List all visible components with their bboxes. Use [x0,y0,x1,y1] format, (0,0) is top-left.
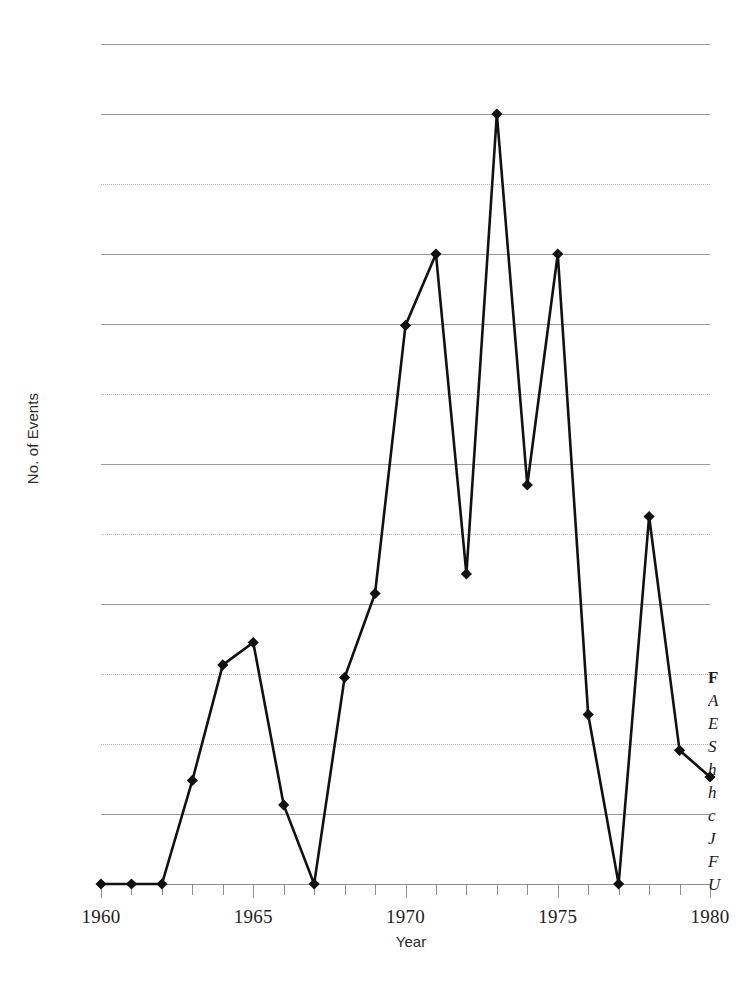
x-tick-mark [375,884,376,895]
y-axis-title: No. of Events [24,359,41,519]
x-tick-mark [406,884,407,898]
data-series [101,44,710,884]
plot-area: 0102030405060708090100110120 19601965197… [101,44,710,884]
x-tick-label: 1960 [56,906,146,928]
caption-line: c [708,804,739,827]
caption-line: F [708,666,739,689]
caption-line: A [708,689,739,712]
caption-line: h [708,758,739,781]
caption-line: F [708,850,739,873]
data-point-marker [430,248,441,259]
x-tick-mark [649,884,650,895]
x-tick-mark [527,884,528,895]
data-point-marker [461,568,472,579]
x-tick-mark [223,884,224,895]
x-tick-label: 1970 [361,906,451,928]
data-point-marker [278,799,289,810]
data-point-marker [369,588,380,599]
data-point-marker [583,709,594,720]
x-tick-label: 1980 [665,906,739,928]
x-tick-mark [466,884,467,895]
x-tick-mark [588,884,589,895]
data-point-marker [644,511,655,522]
x-tick-label: 1975 [513,906,603,928]
caption-line: J [708,827,739,850]
data-point-marker [339,672,350,683]
x-axis-title: Year [101,933,721,950]
x-tick-mark [253,884,254,898]
data-point-marker [156,878,167,889]
data-point-marker [187,775,198,786]
data-point-marker [309,878,320,889]
x-tick-mark [284,884,285,895]
data-point-marker [400,320,411,331]
x-tick-mark [345,884,346,895]
caption-line: S [708,735,739,758]
data-point-marker [491,108,502,119]
caption-line: E [708,712,739,735]
x-tick-mark [192,884,193,895]
x-tick-mark [558,884,559,898]
figure-line-chart: No. of Events Year 010203040506070809010… [0,0,739,981]
data-point-marker [552,248,563,259]
x-tick-label: 1965 [208,906,298,928]
figure-caption: FAEShhcJFU [708,666,739,896]
caption-line: h [708,781,739,804]
x-tick-mark [436,884,437,895]
caption-line: U [708,873,739,896]
data-point-marker [126,878,137,889]
x-tick-mark [680,884,681,895]
x-tick-mark [497,884,498,895]
series-line [101,114,710,884]
data-point-marker [613,878,624,889]
data-point-marker [95,878,106,889]
data-point-marker [522,479,533,490]
